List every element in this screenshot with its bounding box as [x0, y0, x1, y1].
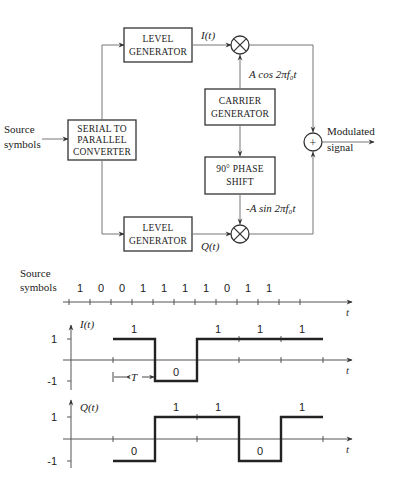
multiplier-top: [231, 36, 249, 54]
serial-to-parallel-block: SERIAL TO PARALLEL CONVERTER: [68, 120, 136, 160]
phase-shift-block: 90° PHASE SHIFT: [205, 157, 275, 194]
cos-carrier-label: A cos 2πf₀t: [248, 68, 298, 80]
q-ytick-pos: 1: [51, 411, 57, 423]
level-gen-top-line2: GENERATOR: [129, 47, 188, 57]
source-bit: 1: [203, 282, 209, 294]
i-signal-label: I(t): [200, 29, 215, 42]
wire-to-bottom-level-gen: [102, 160, 124, 234]
input-label-line2: symbols: [4, 138, 41, 150]
level-generator-top: LEVEL GENERATOR: [124, 28, 192, 62]
source-bit: 0: [98, 282, 104, 294]
i-plot-ylabel: I(t): [79, 318, 94, 331]
source-timeline-label-line1: Source: [20, 267, 51, 279]
level-gen-bottom-line2: GENERATOR: [129, 236, 188, 246]
s2p-line2: PARALLEL: [77, 135, 126, 145]
phase-shift-line2: SHIFT: [226, 177, 253, 187]
source-axis-t-label: t: [346, 306, 350, 318]
source-bit: 1: [161, 282, 167, 294]
source-bit: 1: [140, 282, 146, 294]
i-bit: 1: [257, 323, 263, 335]
i-ytick-pos: 1: [51, 333, 57, 345]
adder-plus-symbol: +: [310, 136, 317, 150]
sin-carrier-label: -A sin 2πf₀t: [246, 202, 296, 214]
carrier-gen-line1: CARRIER: [219, 96, 262, 106]
source-bit: 1: [77, 282, 83, 294]
i-bit: 1: [215, 323, 221, 335]
level-gen-bottom-line1: LEVEL: [142, 223, 173, 233]
source-bit: 1: [266, 282, 272, 294]
level-gen-top-line1: LEVEL: [142, 34, 173, 44]
i-axis-t-label: t: [346, 364, 350, 376]
q-axis-t-label: t: [346, 443, 350, 455]
q-bit: 1: [215, 401, 221, 413]
q-plot-ylabel: Q(t): [80, 401, 99, 414]
output-label-line1: Modulated: [327, 125, 375, 137]
source-timeline-label-line2: symbols: [20, 281, 57, 293]
carrier-generator-block: CARRIER GENERATOR: [205, 89, 275, 125]
output-label-line2: signal: [327, 141, 353, 153]
phase-shift-line1: 90° PHASE: [216, 164, 264, 174]
source-bit: 1: [182, 282, 188, 294]
q-waveform-plot: Q(t) 1 -1 t 0 1 1 0 1: [47, 400, 352, 468]
q-bit: 1: [173, 401, 179, 413]
i-waveform-plot: I(t) 1 -1 t 1 0 1 1 1 T: [47, 318, 352, 390]
level-generator-bottom: LEVEL GENERATOR: [124, 217, 192, 251]
q-bit: 1: [299, 401, 305, 413]
source-bit: 0: [119, 282, 125, 294]
i-bit: 1: [131, 323, 137, 335]
source-symbols-timeline: Source symbols 1 0 0 1 1 1 1 0 1: [20, 267, 352, 318]
i-bit: 0: [173, 366, 179, 378]
adder: +: [304, 133, 322, 151]
i-bit: 1: [299, 323, 305, 335]
q-bit: 0: [257, 445, 263, 457]
input-label-line1: Source: [4, 123, 35, 135]
wire-to-top-level-gen: [102, 45, 124, 120]
s2p-line3: CONVERTER: [73, 147, 132, 157]
source-bit: 1: [245, 282, 251, 294]
carrier-gen-line2: GENERATOR: [211, 109, 270, 119]
i-bit-labels: 1 0 1 1 1: [131, 323, 305, 378]
multiplier-bottom: [231, 225, 249, 243]
q-signal-label: Q(t): [201, 240, 220, 253]
q-bit-labels: 0 1 1 0 1: [131, 401, 305, 457]
source-bit: 0: [224, 282, 230, 294]
block-diagram: Source symbols SERIAL TO PARALLEL CONVER…: [4, 28, 375, 253]
source-bits: 1 0 0 1 1 1 1 0 1 1: [77, 282, 272, 294]
s2p-line1: SERIAL TO: [77, 124, 126, 134]
period-label: T: [131, 371, 138, 383]
q-bit: 0: [131, 445, 137, 457]
period-marker: T: [113, 371, 154, 383]
i-ytick-neg: -1: [47, 375, 57, 387]
qpsk-modulator-figure: Source symbols SERIAL TO PARALLEL CONVER…: [0, 0, 399, 492]
q-ytick-neg: -1: [47, 455, 57, 467]
